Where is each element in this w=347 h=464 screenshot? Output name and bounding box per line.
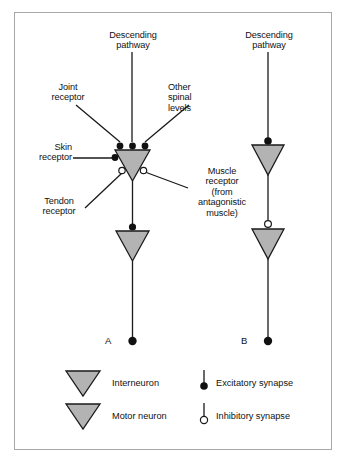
legend-label-excitatory-synapse: Excitatory synapse <box>216 378 293 388</box>
panel-b-synapse-interneuron-to-motor <box>265 221 272 228</box>
legend-interneuron-icon <box>66 371 100 396</box>
panel-a-output-terminal <box>128 337 136 345</box>
panel-b-output-terminal <box>264 337 272 345</box>
neural-circuit-diagram <box>0 0 347 464</box>
panel-a-descending-pathway-label: Descending pathway <box>98 30 168 51</box>
panel-a-joint-receptor-label: Joint receptor <box>40 82 96 103</box>
panel-a-motor-neuron <box>116 231 149 261</box>
panel-b-synapse-descending-pathway <box>264 137 272 145</box>
legend-motor-neuron-icon <box>66 404 100 429</box>
panel-a-id-label: A <box>105 335 111 346</box>
panel-a-interneuron <box>115 150 150 181</box>
panel-a-synapse-other-spinal-levels <box>142 143 149 150</box>
panel-a-skin-receptor-label: Skin receptor <box>14 142 72 163</box>
legend-excitatory-synapse-icon <box>200 382 208 390</box>
panel-a-other-spinal-levels-label: Other spinal levels <box>168 82 220 113</box>
legend-label-interneuron: Interneuron <box>112 378 159 388</box>
panel-a-synapse-muscle-receptor <box>140 167 146 173</box>
legend-label-motor-neuron: Motor neuron <box>112 411 167 421</box>
panel-a-muscle-receptor-label: Muscle receptor (from antagonistic muscl… <box>186 166 258 218</box>
panel-a-tendon-receptor-line <box>85 173 122 208</box>
panel-b-id-label: B <box>241 335 247 346</box>
legend-inhibitory-synapse-icon <box>200 416 207 423</box>
panel-b-motor-neuron <box>252 229 284 259</box>
panel-a-synapse-descending-pathway <box>129 143 136 150</box>
legend-label-inhibitory-synapse: Inhibitory synapse <box>216 411 290 421</box>
panel-a-muscle-receptor-line <box>145 172 188 188</box>
panel-a-synapse-skin-receptor <box>112 154 119 161</box>
panel-a-synapse-interneuron-to-motor <box>129 223 136 230</box>
panel-b-descending-pathway-label: Descending pathway <box>234 30 304 51</box>
panel-a-joint-receptor-line <box>76 105 120 142</box>
panel-a-synapse-joint-receptor <box>117 143 124 150</box>
panel-a-tendon-receptor-label: Tendon receptor <box>30 196 88 217</box>
panel-a-synapse-tendon-receptor <box>119 167 125 173</box>
